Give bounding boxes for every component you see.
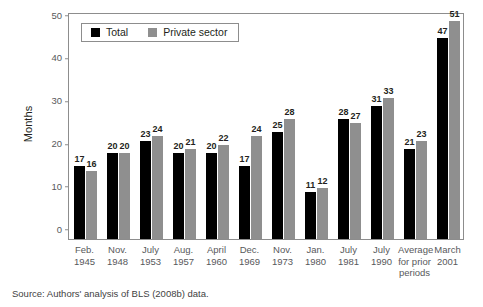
x-axis-label: Averagefor priorperiods: [398, 244, 431, 279]
x-axis-label-line: 1957: [167, 256, 200, 268]
x-axis-label-line: 1981: [332, 256, 365, 268]
bar-value-label: 21: [185, 138, 195, 147]
bar-value-label: 21: [404, 138, 414, 147]
bar-private-sector: [152, 136, 163, 239]
bar-value-label: 25: [272, 121, 282, 130]
bar-total: [305, 192, 316, 239]
y-axis-tick: 40: [51, 54, 69, 64]
x-axis-label: Dec.1969: [233, 244, 266, 267]
x-axis-label-line: July: [134, 244, 167, 256]
bar-total: [74, 166, 85, 239]
bar-column: 20: [206, 14, 217, 239]
bar-value-label: 24: [152, 125, 162, 134]
bar-column: 23: [416, 14, 427, 239]
bar-group: 2022: [201, 14, 234, 239]
bar-group: 3133: [366, 14, 399, 239]
bar-private-sector: [185, 149, 196, 239]
x-axis-label-line: 2001: [431, 256, 464, 268]
bar-value-label: 31: [371, 95, 381, 104]
bar-value-label: 17: [74, 155, 84, 164]
bar-column: 51: [449, 14, 460, 239]
y-axis-tick: 50: [51, 11, 69, 21]
bar-total: [239, 166, 250, 239]
bar-value-label: 11: [306, 181, 316, 190]
bar-column: 24: [152, 14, 163, 239]
bar-column: 47: [437, 14, 448, 239]
bar-value-label: 24: [251, 125, 261, 134]
x-axis-label: July1981: [332, 244, 365, 267]
bars-layer: 1716202023242021202217242528111228273133…: [69, 14, 463, 239]
x-axis-label-line: Nov.: [266, 244, 299, 256]
x-axis-label-line: July: [332, 244, 365, 256]
bar-value-label: 20: [107, 142, 117, 151]
bar-private-sector: [416, 141, 427, 239]
x-axis-label: Nov.1973: [266, 244, 299, 267]
bar-value-label: 27: [350, 112, 360, 121]
bar-private-sector: [119, 153, 130, 239]
y-axis-title: Months: [22, 84, 34, 164]
bar-group: 1716: [69, 14, 102, 239]
x-axis-label: Feb.1945: [68, 244, 101, 267]
x-axis-label-line: Feb.: [68, 244, 101, 256]
bar-column: 23: [140, 14, 151, 239]
x-axis-label: April1960: [200, 244, 233, 267]
bar-column: 28: [284, 14, 295, 239]
x-axis-label-line: Average: [398, 244, 431, 256]
bar-private-sector: [317, 188, 328, 239]
x-axis-label-line: 1980: [299, 256, 332, 268]
bar-value-label: 20: [119, 142, 129, 151]
bar-total: [338, 119, 349, 239]
x-axis-label-line: 1969: [233, 256, 266, 268]
bar-private-sector: [251, 136, 262, 239]
bar-private-sector: [218, 145, 229, 239]
bar-column: 17: [239, 14, 250, 239]
bar-value-label: 33: [383, 87, 393, 96]
bar-group: 4751: [432, 14, 465, 239]
bar-total: [206, 153, 217, 239]
x-axis-label-line: 1990: [365, 256, 398, 268]
source-note: Source: Authors' analysis of BLS (2008b)…: [12, 288, 209, 299]
bar-group: 1112: [300, 14, 333, 239]
x-axis-label-line: July: [365, 244, 398, 256]
bar-value-label: 23: [416, 130, 426, 139]
x-axis-label: Nov.1948: [101, 244, 134, 267]
bar-total: [371, 106, 382, 239]
bar-column: 33: [383, 14, 394, 239]
bar-private-sector: [383, 98, 394, 239]
bar-value-label: 23: [140, 130, 150, 139]
bar-value-label: 28: [338, 108, 348, 117]
bar-column: 24: [251, 14, 262, 239]
bar-group: 2528: [267, 14, 300, 239]
x-axis-label-line: Nov.: [101, 244, 134, 256]
x-axis-label-line: 1973: [266, 256, 299, 268]
bar-group: 2827: [333, 14, 366, 239]
bar-value-label: 20: [173, 142, 183, 151]
bar-total: [437, 38, 448, 239]
x-axis-label-line: periods: [398, 267, 431, 279]
bar-group: 2020: [102, 14, 135, 239]
bar-value-label: 16: [86, 160, 96, 169]
y-axis-tick: 30: [51, 96, 69, 106]
y-axis-tick: 10: [51, 182, 69, 192]
x-axis-label-line: 1948: [101, 256, 134, 268]
bar-column: 31: [371, 14, 382, 239]
bar-private-sector: [350, 123, 361, 239]
bar-chart-figure: Months 01020304050 TotalPrivate sector 1…: [0, 0, 483, 307]
bar-total: [107, 153, 118, 239]
bar-column: 16: [86, 14, 97, 239]
bar-column: 22: [218, 14, 229, 239]
bar-column: 21: [404, 14, 415, 239]
x-axis-label: Jan.1980: [299, 244, 332, 267]
bar-value-label: 17: [239, 155, 249, 164]
y-axis-tick: 20: [51, 139, 69, 149]
bar-column: 25: [272, 14, 283, 239]
bar-column: 21: [185, 14, 196, 239]
bar-group: 2324: [135, 14, 168, 239]
bar-column: 12: [317, 14, 328, 239]
plot-area: 01020304050 TotalPrivate sector 17162020…: [68, 13, 464, 240]
bar-column: 27: [350, 14, 361, 239]
bar-column: 20: [107, 14, 118, 239]
x-axis-label-line: 1945: [68, 256, 101, 268]
bar-column: 17: [74, 14, 85, 239]
x-axis-label: July1990: [365, 244, 398, 267]
